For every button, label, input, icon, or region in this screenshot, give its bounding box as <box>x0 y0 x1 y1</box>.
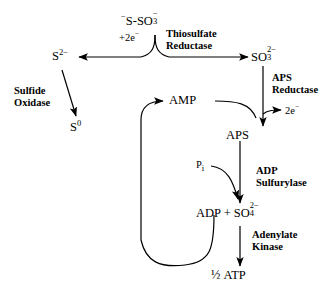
sulfate-charge-stack: 2−4 <box>250 204 258 217</box>
node-elemental-sulfur: S0 <box>70 119 81 134</box>
edge-electrons-out <box>263 110 281 114</box>
enzyme-sulfide-oxidase: Sulfide Oxidase <box>14 85 50 110</box>
node-sulfite: SO2−3 <box>251 48 275 63</box>
cofactor-electrons-in: +2e− <box>119 31 139 43</box>
node-adp-plus-sulfate: ADP + SO2−4 <box>196 204 258 219</box>
enzyme-adenylate-kinase: Adenylate Kinase <box>252 229 298 254</box>
cofactor-electrons-out: 2e− <box>285 104 299 116</box>
enzyme-thiosulfate-reductase: Thiosulfate Reductase <box>166 28 217 53</box>
edge-amp-to-aps <box>215 101 256 118</box>
node-sulfide: S2− <box>52 48 68 63</box>
edge-phosphate-in <box>211 166 238 199</box>
edge-sulfide-to-sulfur <box>62 70 76 116</box>
edge-fork-left-curve <box>141 35 155 57</box>
node-half-atp: ½ ATP <box>211 269 246 282</box>
sulfite-charge-stack: 2−3 <box>267 48 275 61</box>
thiosulfate-charge-stack: −3 <box>153 12 161 25</box>
node-thiosulfate: −S-SO−3 <box>121 12 161 27</box>
cofactor-phosphate: Pi <box>196 160 204 173</box>
node-amp: AMP <box>169 94 196 107</box>
enzyme-adp-sulfurylase: ADP Sulfurylase <box>256 165 307 190</box>
node-aps: APS <box>226 129 249 142</box>
edge-recycle-loop-to-amp <box>141 101 214 266</box>
enzyme-aps-reductase: APS Reductase <box>272 72 318 97</box>
pathway-diagram: −S-SO−3 S2− S0 SO2−3 AMP APS ADP + SO2−4… <box>0 0 332 294</box>
